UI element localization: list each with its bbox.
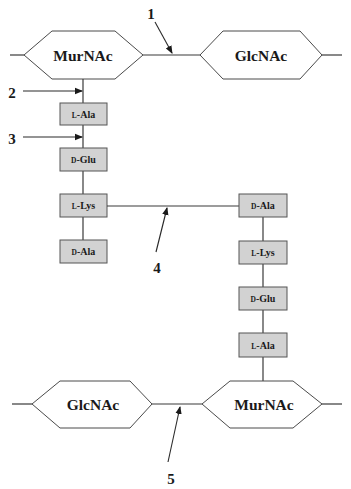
residue-label: D-Glu (71, 154, 96, 165)
marker-label: 2 (8, 85, 16, 101)
marker-3: 3 (8, 131, 82, 147)
pointer-arrow-icon (156, 208, 167, 252)
top-glycan-chain: MurNAc GlcNAc (10, 31, 342, 79)
marker-label: 4 (153, 260, 161, 276)
left-stem-peptide: L-Ala D-Glu L-Lys D-Ala (60, 79, 107, 263)
pointer-arrow-icon (168, 407, 180, 462)
left-residue-l-lys: L-Lys (60, 194, 107, 217)
residue-label: D-Ala (72, 246, 96, 257)
right-residue-d-glu: D-Glu (239, 287, 287, 310)
residue-label: D-Glu (251, 293, 276, 304)
bottom-murnac-hexagon: MurNAc (202, 381, 322, 428)
right-residue-d-ala: D-Ala (239, 194, 287, 217)
residue-label: L-Ala (251, 340, 274, 351)
sugar-label: MurNAc (53, 47, 113, 64)
right-stem-peptide: D-Ala L-Lys D-Glu L-Ala (239, 194, 287, 381)
left-residue-l-ala: L-Ala (60, 103, 107, 125)
sugar-label: MurNAc (234, 396, 294, 413)
left-residue-d-ala: D-Ala (60, 240, 107, 263)
sugar-label: GlcNAc (235, 47, 288, 64)
marker-4: 4 (153, 208, 167, 276)
bottom-glcnac-hexagon: GlcNAc (32, 381, 152, 428)
marker-label: 1 (147, 6, 155, 22)
left-residue-d-glu: D-Glu (60, 148, 107, 171)
peptidoglycan-diagram: MurNAc GlcNAc L-Ala D-Glu L-Lys D-Ala (0, 0, 351, 489)
top-murnac-hexagon: MurNAc (24, 31, 143, 79)
right-residue-l-ala: L-Ala (239, 333, 287, 357)
top-glcnac-hexagon: GlcNAc (200, 31, 322, 79)
residue-label: D-Ala (251, 200, 275, 211)
marker-2: 2 (8, 85, 82, 101)
right-residue-l-lys: L-Lys (239, 241, 287, 264)
residue-label: L-Ala (72, 109, 95, 120)
marker-label: 5 (167, 471, 175, 487)
sugar-label: GlcNAc (67, 396, 120, 413)
marker-label: 3 (8, 131, 16, 147)
marker-5: 5 (167, 407, 180, 487)
marker-1: 1 (147, 6, 172, 53)
residue-label: L-Lys (251, 247, 274, 258)
residue-label: L-Lys (72, 200, 95, 211)
pointer-arrow-icon (155, 22, 172, 53)
